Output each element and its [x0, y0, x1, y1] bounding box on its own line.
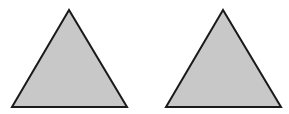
- diagram-canvas: [0, 0, 289, 114]
- right-triangle: [166, 10, 281, 107]
- left-triangle: [12, 10, 127, 107]
- triangles-figure: [0, 0, 289, 114]
